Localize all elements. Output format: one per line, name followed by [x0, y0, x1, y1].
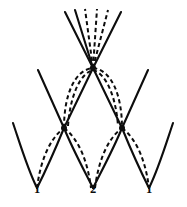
branching-curve-diagram: 121 — [0, 0, 187, 207]
vertex-dot-apex — [90, 65, 96, 71]
level-label-0: 1 — [34, 182, 40, 196]
figure-background — [0, 0, 187, 207]
figure-container: 121 — [0, 0, 187, 207]
level-label-2: 1 — [146, 182, 152, 196]
vertex-dot-left-node — [61, 125, 67, 131]
level-label-1: 2 — [90, 182, 96, 196]
vertex-dot-right-node — [119, 125, 125, 131]
